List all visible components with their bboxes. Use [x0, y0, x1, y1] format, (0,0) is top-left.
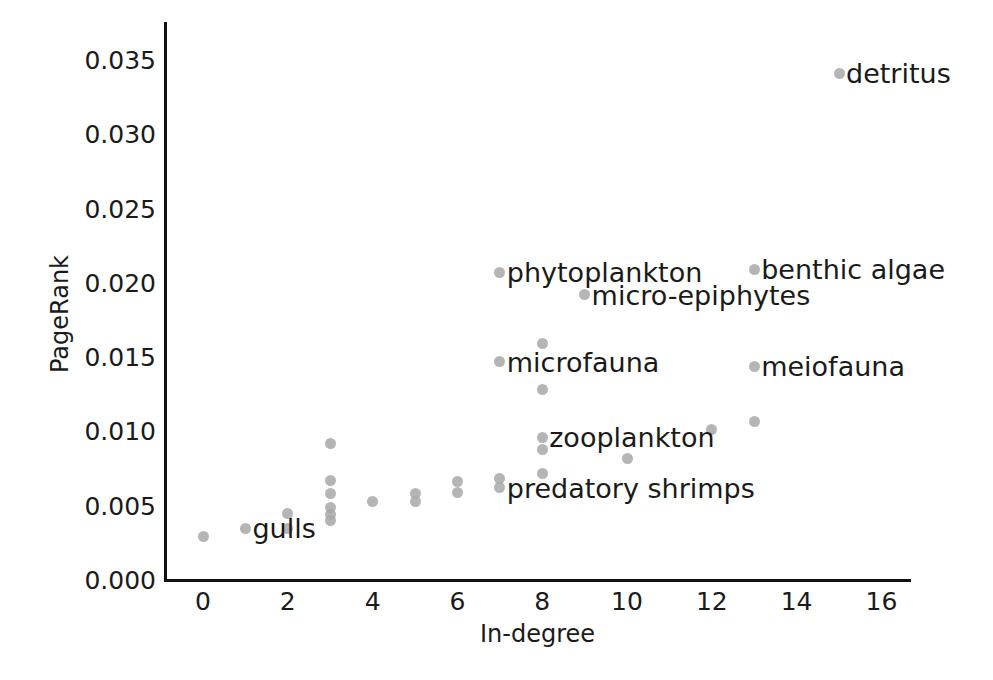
point-annotation: meiofauna: [761, 353, 905, 380]
y-axis-title: PageRank: [46, 214, 74, 414]
x-tick-label: 0: [195, 589, 211, 614]
point-annotation: predatory shrimps: [507, 474, 755, 501]
x-tick-label: 6: [449, 589, 465, 614]
point-annotation: micro-epiphytes: [592, 281, 811, 308]
point-annotation: microfauna: [507, 348, 660, 375]
x-tick-label: 8: [534, 589, 550, 614]
x-tick-label: 12: [696, 589, 728, 614]
data-point: [325, 515, 336, 526]
data-point: [537, 384, 548, 395]
data-point: [537, 444, 548, 455]
data-point: [537, 432, 548, 443]
x-tick-label: 10: [611, 589, 643, 614]
x-tick-label: 4: [365, 589, 381, 614]
x-axis-title: In-degree: [164, 620, 911, 648]
data-point: [749, 264, 760, 275]
point-annotation: zooplankton: [549, 424, 714, 451]
data-point: [749, 416, 760, 427]
data-point: [622, 453, 633, 464]
data-point: [325, 488, 336, 499]
data-point: [834, 68, 845, 79]
x-tick-label: 2: [280, 589, 296, 614]
data-point: [494, 267, 505, 278]
data-point: [325, 438, 336, 449]
x-axis-line: [164, 579, 911, 582]
data-point: [410, 496, 421, 507]
y-tick-label: 0.030: [28, 122, 156, 147]
x-tick-label: 14: [781, 589, 813, 614]
y-tick-label: 0.005: [28, 493, 156, 518]
data-point: [240, 523, 251, 534]
scatter-plot-figure: 0.0000.0050.0100.0150.0200.0250.0300.035…: [0, 0, 993, 680]
y-tick-label: 0.035: [28, 48, 156, 73]
data-point: [198, 531, 209, 542]
data-point: [325, 475, 336, 486]
data-point: [494, 482, 505, 493]
data-point: [452, 487, 463, 498]
y-axis-line: [164, 22, 167, 582]
data-point: [452, 476, 463, 487]
y-tick-label: 0.000: [28, 568, 156, 593]
data-point: [749, 361, 760, 372]
y-tick-label: 0.010: [28, 419, 156, 444]
point-annotation: gulls: [252, 515, 315, 542]
data-point: [579, 289, 590, 300]
x-tick-label: 16: [865, 589, 897, 614]
data-point: [494, 356, 505, 367]
point-annotation: detritus: [846, 60, 951, 87]
data-point: [367, 496, 378, 507]
